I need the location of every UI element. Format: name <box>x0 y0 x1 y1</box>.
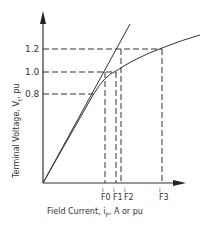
x-tick-if0: i F0 <box>101 186 111 202</box>
svg-text:F2: F2 <box>124 193 134 202</box>
svg-text:i: i <box>102 186 104 193</box>
svg-text:i: i <box>159 186 161 193</box>
svg-text:i: i <box>113 186 115 193</box>
y-tick-1.0: 1.0 <box>25 67 40 77</box>
x-tick-if1: i F1 <box>113 186 123 202</box>
x-axis-arrow-icon <box>173 180 186 186</box>
svg-text:F1: F1 <box>113 193 123 202</box>
y-tick-1.2: 1.2 <box>25 44 39 54</box>
y-axis-arrow-icon <box>40 11 46 24</box>
svg-text:F0: F0 <box>101 193 111 202</box>
x-tick-if3: i F3 <box>159 186 169 202</box>
svg-text:i: i <box>124 186 126 193</box>
svg-text:F3: F3 <box>159 193 169 202</box>
x-tick-if2: i F2 <box>124 186 134 202</box>
chart: 1.2 1.0 0.8 i F0 i F1 i F2 i F3 Field Cu… <box>0 0 207 227</box>
x-axis-title: Field Current, iF, A or pu <box>47 207 143 218</box>
y-axis-title: Terminal Voltage, Vt, pu <box>12 83 23 179</box>
y-tick-0.8: 0.8 <box>25 89 40 99</box>
